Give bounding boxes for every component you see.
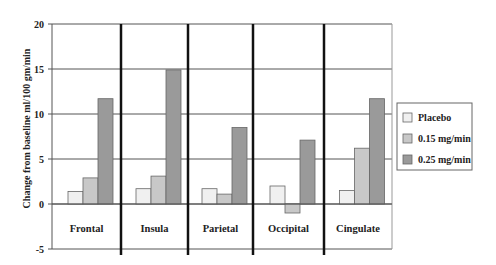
legend-swatch	[403, 134, 412, 143]
bar	[83, 178, 98, 204]
legend-label: Placebo	[418, 112, 451, 123]
category-label: Cingulate	[336, 223, 380, 234]
y-axis-label: Change from baseline ml/100 gm/min	[21, 48, 32, 208]
category-labels: FrontalInsulaParietalOccipitalCingulate	[70, 223, 381, 234]
category-label: Frontal	[70, 223, 104, 234]
category-label: Occipital	[268, 223, 309, 234]
legend: Placebo0.15 mg/min0.25 mg/min	[397, 103, 472, 170]
bar	[340, 191, 355, 205]
bar	[68, 191, 83, 204]
y-tick-label: -5	[36, 244, 44, 255]
category-label: Insula	[140, 223, 169, 234]
category-dividers	[121, 24, 324, 255]
bar	[202, 189, 217, 204]
y-tick-label: 10	[34, 109, 44, 120]
y-tick-label: 15	[34, 64, 44, 75]
bar-series	[52, 70, 392, 213]
legend-swatch	[403, 113, 412, 122]
bar	[151, 176, 166, 204]
y-axis-ticks: -505101520	[34, 19, 44, 255]
bar	[370, 99, 385, 204]
bar-chart: -505101520 Change from baseline ml/100 g…	[0, 0, 496, 265]
bar	[270, 186, 285, 204]
bar	[285, 204, 300, 213]
y-tick-label: 20	[34, 19, 44, 30]
bar	[355, 148, 370, 204]
category-label: Parietal	[203, 223, 239, 234]
bar	[166, 70, 181, 204]
bar	[232, 128, 247, 205]
legend-label: 0.15 mg/min	[418, 133, 471, 144]
bar	[136, 189, 151, 204]
y-tick-label: 5	[39, 154, 44, 165]
legend-swatch	[403, 155, 412, 164]
bar	[300, 140, 315, 204]
bar	[98, 99, 113, 204]
legend-label: 0.25 mg/min	[418, 154, 471, 165]
y-tick-label: 0	[39, 199, 44, 210]
bar	[217, 194, 232, 204]
